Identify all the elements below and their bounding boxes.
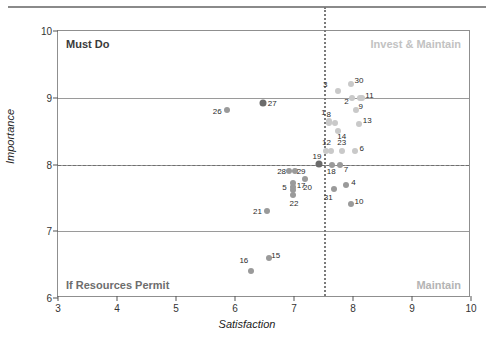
data-point-label-7: 7 [344,165,348,174]
data-point-26[interactable] [224,107,230,113]
plot-area: Must Do Invest & Maintain If Resources P… [57,30,470,297]
y-axis-tick-label-10: 10 [41,26,52,37]
y-axis-title: Importance [4,109,16,164]
data-point-10[interactable] [348,201,354,207]
data-point-label-11: 11 [365,91,373,100]
y-axis-tick-label-6: 6 [46,293,52,304]
data-point-label-10: 10 [354,197,363,206]
y-axis-tick-label-8: 8 [46,159,52,170]
x-axis-tick-mark-4 [117,296,118,301]
data-point-3[interactable] [335,88,341,94]
x-axis-tick-mark-9 [412,296,413,301]
data-point-label-8: 8 [327,109,331,118]
data-point-label-26: 26 [213,107,222,116]
y-axis-tick-label-7: 7 [46,226,52,237]
data-point-label-18: 18 [327,167,336,176]
x-axis-tick-label-7: 7 [291,303,297,314]
data-point-20[interactable] [302,176,308,182]
data-point-unlabeled-31[interactable] [290,187,296,193]
data-point-label-28: 28 [277,166,286,175]
x-axis-tick-label-6: 6 [232,303,238,314]
top-divider-rule [8,6,486,8]
x-axis-tick-mark-10 [471,296,472,301]
data-point-2[interactable] [349,95,355,101]
data-point-label-4: 4 [351,177,355,186]
x-axis-tick-mark-3 [58,296,59,301]
data-point-label-30: 30 [354,75,363,84]
data-point-4[interactable] [343,182,349,188]
x-axis-tick-label-3: 3 [55,303,61,314]
y-axis-tick-mark-10 [53,31,58,32]
gridline-y-7 [58,231,469,232]
data-point-6[interactable] [352,148,358,154]
x-axis-tick-label-9: 9 [409,303,415,314]
data-point-7[interactable] [337,162,343,168]
data-point-label-6: 6 [360,143,364,152]
data-point-label-19: 19 [313,151,322,160]
chart-page: Importance Satisfaction Must Do Invest &… [0,0,494,341]
x-axis-tick-label-10: 10 [465,303,476,314]
x-axis-tick-mark-7 [294,296,295,301]
data-point-23[interactable] [339,148,345,154]
data-point-label-9: 9 [358,102,362,111]
data-point-label-29: 29 [297,167,306,176]
quadrant-label-maintain: Maintain [416,279,461,291]
x-axis-tick-mark-6 [235,296,236,301]
x-axis-tick-label-8: 8 [350,303,356,314]
data-point-label-23: 23 [337,138,346,147]
y-axis-tick-mark-8 [53,164,58,165]
x-axis-tick-label-5: 5 [173,303,179,314]
data-point-27[interactable] [260,100,267,107]
x-axis-tick-mark-5 [176,296,177,301]
data-point-label-16: 16 [239,255,248,264]
data-point-label-1: 1 [321,107,325,116]
data-point-label-13: 13 [363,116,372,125]
data-point-unlabeled-32[interactable] [357,95,363,101]
data-point-label-21: 21 [253,207,262,216]
y-axis-tick-label-9: 9 [46,92,52,103]
data-point-label-5: 5 [282,183,286,192]
data-point-19[interactable] [315,160,322,167]
data-point-label-27: 27 [268,99,277,108]
quadrant-label-if-resources-permit: If Resources Permit [66,279,169,291]
data-point-unlabeled-30[interactable] [332,120,338,126]
data-point-label-15: 15 [271,250,280,259]
quadrant-label-must-do: Must Do [66,38,109,50]
data-point-label-2: 2 [344,97,348,106]
y-axis-tick-mark-9 [53,97,58,98]
x-axis-tick-label-4: 4 [114,303,120,314]
quadrant-label-invest-and-maintain: Invest & Maintain [371,38,461,50]
x-axis-title: Satisfaction [0,318,494,330]
data-point-label-3: 3 [323,80,327,89]
data-point-unlabeled-29[interactable] [323,148,329,154]
data-point-13[interactable] [356,121,362,127]
data-point-label-12: 12 [322,138,331,147]
reference-line-horizontal [58,165,469,166]
data-point-label-22: 22 [290,199,299,208]
data-point-label-20: 20 [303,183,312,192]
data-point-30[interactable] [348,81,354,87]
data-point-21[interactable] [264,208,270,214]
y-axis-tick-mark-7 [53,231,58,232]
data-point-label-31: 31 [324,192,333,201]
data-point-17[interactable] [290,180,296,186]
data-point-16[interactable] [248,268,254,274]
x-axis-tick-mark-8 [353,296,354,301]
